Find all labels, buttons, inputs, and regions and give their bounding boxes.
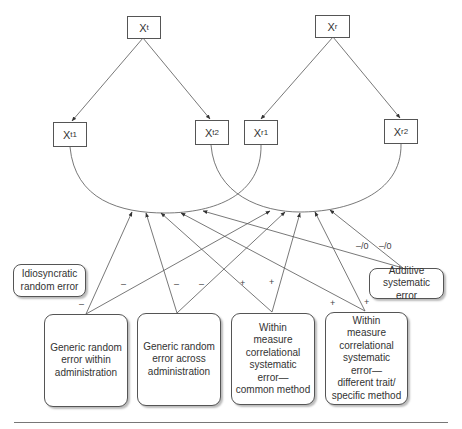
sign-common-method-left: + [240,279,245,288]
generic-within-box: Generic random error within administrati… [44,314,128,407]
indicator-xr1: Xr1 [244,120,278,145]
indicator-xt2: Xt2 [195,120,229,145]
different-trait-box: Within measure correlational systematic … [325,312,408,405]
latent-xt: Xt [127,16,161,39]
bottom-rule [14,422,448,423]
indicator-xt1: Xt1 [53,122,87,147]
sign-generic-within-left: – [79,300,84,309]
generic-across-box: Generic random error across administrati… [137,313,221,406]
idiosyncratic-error-box: Idiosyncratic random error [13,264,86,297]
curve-t1-r1 [70,145,261,213]
sign-additive-left: –/0 [356,242,369,251]
sign-additive-right: –/0 [379,242,392,251]
latent-xr: Xr [315,15,350,38]
sign-generic-across-right: – [199,280,204,289]
additive-error-box: Additive systematic error [369,268,444,299]
sign-common-method-right: + [269,278,274,287]
path-xr-xr2 [333,37,400,118]
sign-generic-across-left: – [174,280,179,289]
indicator-xr2: Xr2 [384,119,418,144]
common-method-box: Within measure correlational systematic … [231,313,315,405]
curve-t2-r2 [211,144,401,212]
sign-generic-within-right: – [121,280,126,289]
sign-different-trait-left: + [330,299,335,308]
path-xt-xt2 [143,38,210,119]
path-xt-xt1 [72,38,143,121]
sign-different-trait-right: + [364,298,369,307]
path-xr-xr1 [261,37,333,119]
